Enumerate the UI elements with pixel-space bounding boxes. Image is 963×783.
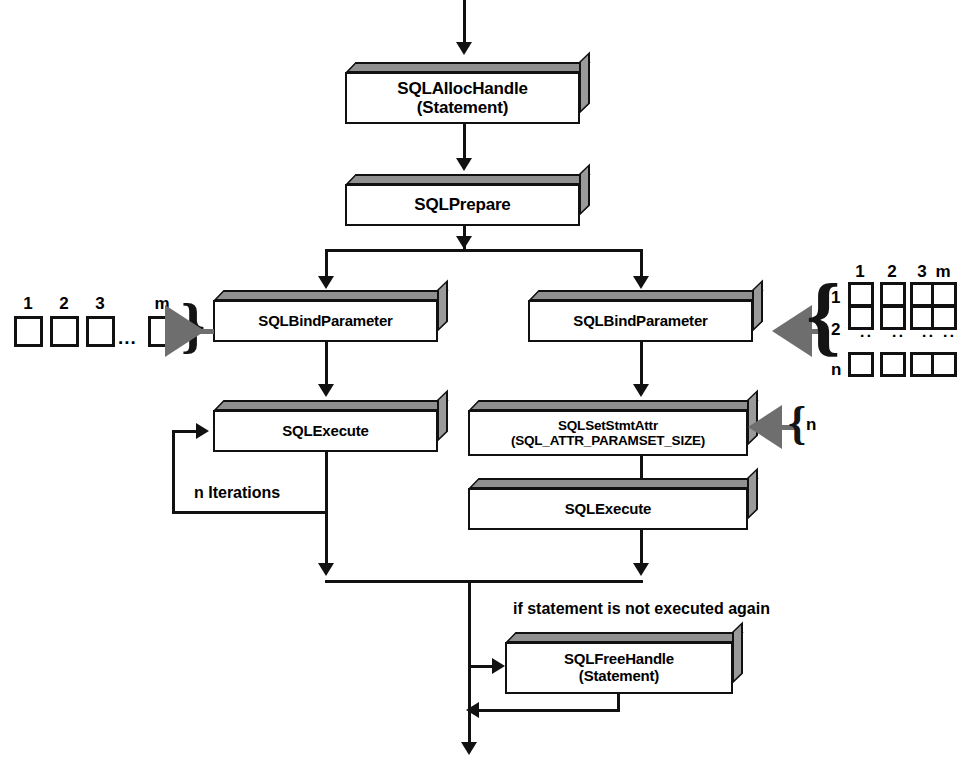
box-label-line1: SQLExecute: [565, 501, 651, 518]
box-sqlsetstmtattr[interactable]: SQLSetStmtAttr (SQL_ATTR_PARAMSET_SIZE): [468, 400, 758, 456]
box-front-face: SQLPrepare: [345, 184, 580, 226]
prepare-split-arrowhead: [456, 236, 472, 249]
loop-up-segment: [172, 430, 175, 514]
box-front-face: SQLExecute: [213, 410, 438, 452]
right-array-vellipsis-c3: :: [918, 333, 938, 337]
entry-arrowhead: [456, 42, 472, 55]
flowchart-canvas: SQLAllocHandle (Statement) SQLPrepare SQ…: [0, 0, 963, 783]
box-side-face: [437, 279, 448, 332]
box-front-face: SQLSetStmtAttr (SQL_ATTR_PARAMSET_SIZE): [468, 410, 748, 456]
box-label-line1: SQLFreeHandle: [564, 651, 674, 668]
box-label-line1: SQLAllocHandle: [397, 79, 527, 98]
box-label-line1: SQLBindParameter: [258, 313, 392, 330]
box-front-face: SQLBindParameter: [213, 300, 438, 342]
bindright-to-setattr-arrowhead: [633, 384, 649, 397]
left-array-cell-1: [14, 316, 43, 347]
bindleft-to-execute-arrowhead: [318, 384, 334, 397]
box-label-line1: SQLPrepare: [414, 195, 510, 214]
box-label-line2: (Statement): [564, 668, 674, 685]
entry-connector: [463, 0, 466, 44]
box-sqlallochandle[interactable]: SQLAllocHandle (Statement): [345, 62, 590, 124]
right-array-cell-r1c2: [880, 282, 906, 307]
box-front-face: SQLExecute: [468, 488, 748, 530]
right-array-col-header-2: 2: [878, 262, 906, 282]
trunk-to-free-arrowhead: [492, 658, 505, 674]
right-array-row-header-2: 2: [831, 320, 840, 340]
right-array-cell-r2c1: [848, 305, 874, 330]
box-sqlexecute-right[interactable]: SQLExecute: [468, 478, 758, 530]
box-side-face: [437, 389, 448, 442]
left-array-header-2: 2: [50, 294, 78, 314]
box-sqlbindparameter-left[interactable]: SQLBindParameter: [213, 290, 448, 342]
paramset-size-label: n: [806, 415, 816, 435]
right-array-cell-r2c2: [880, 305, 906, 330]
right-array-cell-r1cm: [931, 282, 957, 307]
box-label-line2: (Statement): [397, 98, 527, 117]
paramset-brace: {: [788, 400, 806, 446]
bindright-to-setattr-connector: [640, 342, 643, 390]
box-label-line2: (SQL_ATTR_PARAMSET_SIZE): [511, 433, 705, 448]
merge-right-arrowhead: [633, 563, 649, 576]
box-front-face: SQLBindParameter: [528, 300, 753, 342]
exit-arrowhead: [461, 742, 477, 755]
right-array-col-header-1: 1: [846, 262, 874, 282]
box-sqlexecute-left[interactable]: SQLExecute: [213, 400, 448, 452]
merge-left-drop: [325, 511, 328, 569]
left-array-cell-3: [86, 316, 115, 347]
left-array-ellipsis: ...: [118, 327, 137, 349]
figure-caption: [4, 770, 8, 783]
box-side-face: [579, 51, 590, 114]
loop-arrowhead: [196, 423, 209, 439]
box-front-face: SQLFreeHandle (Statement): [505, 642, 733, 694]
alloc-to-prepare-arrowhead: [456, 158, 472, 171]
alloc-to-prepare-connector: [463, 124, 466, 162]
right-array-vellipsis-c2: :: [888, 333, 908, 337]
merge-left-arrowhead: [318, 563, 334, 576]
right-array-vellipsis-c1: :: [856, 333, 876, 337]
right-array-vellipsis-cm: :: [939, 333, 959, 337]
box-side-face: [752, 279, 763, 332]
loop-down-segment: [325, 452, 328, 514]
right-array-brace: {: [806, 272, 841, 360]
split-right-arrowhead: [633, 276, 649, 289]
right-array-cell-rncm: [931, 352, 957, 377]
right-array-cell-r1c1: [848, 282, 874, 307]
box-side-face: [747, 467, 758, 520]
left-gray-arrow-head: [165, 305, 205, 357]
left-array-header-3: 3: [86, 294, 114, 314]
box-sqlfreehandle[interactable]: SQLFreeHandle (Statement): [505, 632, 743, 694]
box-side-face: [579, 163, 590, 216]
n-iterations-label: n Iterations: [194, 484, 280, 502]
left-array-cell-2: [50, 316, 79, 347]
box-label-line1: SQLSetStmtAttr: [511, 418, 705, 433]
box-front-face: SQLAllocHandle (Statement): [345, 72, 580, 124]
right-array-row-header-1: 1: [831, 288, 840, 308]
right-array-cell-rnc2: [880, 352, 906, 377]
right-array-cell-r2cm: [931, 305, 957, 330]
free-return-segment: [478, 709, 620, 712]
box-label-line1: SQLExecute: [282, 423, 368, 440]
right-array-col-header-m: m: [929, 262, 957, 282]
box-sqlprepare[interactable]: SQLPrepare: [345, 174, 590, 226]
not-executed-again-label: if statement is not executed again: [513, 600, 770, 618]
merge-bar: [325, 580, 643, 583]
right-array-row-header-n: n: [831, 360, 841, 380]
box-label-line1: SQLBindParameter: [573, 313, 707, 330]
box-sqlbindparameter-right[interactable]: SQLBindParameter: [528, 290, 763, 342]
loop-left-segment: [172, 511, 328, 514]
left-array-header-1: 1: [14, 294, 42, 314]
free-return-arrowhead: [466, 702, 479, 718]
bindleft-to-execute-connector: [325, 342, 328, 390]
right-array-cell-rnc1: [848, 352, 874, 377]
prepare-split-bar: [325, 249, 643, 252]
split-left-arrowhead: [318, 276, 334, 289]
box-side-face: [732, 621, 743, 684]
